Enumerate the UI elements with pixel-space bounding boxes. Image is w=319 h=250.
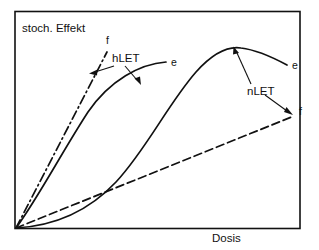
- x-axis-title: Dosis: [212, 232, 241, 244]
- series-label-nlet: nLET: [247, 85, 275, 97]
- series-label-hlet: hLET: [112, 52, 140, 64]
- curve-label-nlet-f: f: [299, 105, 302, 117]
- curve-label-nlet-e: e: [292, 59, 298, 71]
- curve-label-hlet-e: e: [171, 56, 177, 68]
- curve-label-hlet-f: f: [106, 34, 109, 46]
- figure-container: stoch. Effekt f e e f hLET nLET Dosis: [0, 0, 319, 250]
- plot-title: stoch. Effekt: [22, 22, 86, 34]
- stochastic-effect-dose-chart: stoch. Effekt f e e f hLET nLET Dosis: [0, 0, 319, 250]
- chart-background: [0, 0, 319, 250]
